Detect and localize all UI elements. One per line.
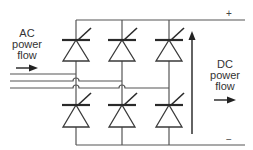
dc-voltage-arrow-icon [189,31,196,134]
dc-flow-arrow-icon [214,97,236,104]
ac-label-line-3: flow [17,49,37,61]
dc-positive-sign: + [226,8,232,19]
ac-phase-line-2 [10,78,122,81]
dc-negative-sign: − [226,134,232,145]
ac-flow-arrow-icon [16,65,38,72]
thyristor-bridge-diagram: AC power flow DC power flow + − [0,0,253,150]
ac-phase-line-3 [10,85,169,88]
dc-label-line-3: flow [215,80,235,92]
